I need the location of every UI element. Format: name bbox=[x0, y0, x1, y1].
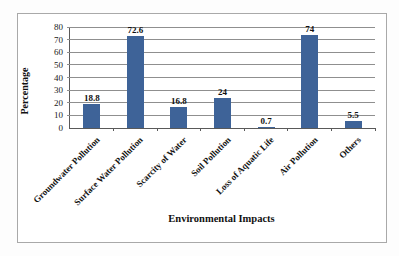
x-axis-tick-6 bbox=[331, 128, 332, 131]
x-axis-title: Environmental Impacts bbox=[69, 213, 374, 224]
value-label-3: 16.8 bbox=[159, 96, 199, 106]
gridline-70 bbox=[67, 39, 375, 40]
gridline-40 bbox=[67, 77, 375, 78]
x-axis-tick-3 bbox=[200, 128, 201, 131]
gridline-50 bbox=[67, 64, 375, 65]
value-label-1: 18.8 bbox=[72, 93, 112, 103]
screenshot-root: Percentage 18.872.616.8240.7745.5 010203… bbox=[0, 0, 399, 256]
value-label-7: 5.5 bbox=[333, 110, 373, 120]
gridline-60 bbox=[67, 52, 375, 53]
y-tick-label-70: 70 bbox=[33, 35, 63, 45]
bar-2 bbox=[127, 36, 144, 128]
y-tick-label-10: 10 bbox=[33, 110, 63, 120]
x-axis-tick-1 bbox=[113, 128, 114, 131]
x-axis-tick-2 bbox=[157, 128, 158, 131]
y-tick-label-30: 30 bbox=[33, 85, 63, 95]
bar-4 bbox=[214, 98, 231, 128]
y-axis-title: Percentage bbox=[19, 101, 30, 115]
value-label-5: 0.7 bbox=[246, 116, 286, 126]
y-tick-label-20: 20 bbox=[33, 98, 63, 108]
value-label-6: 74 bbox=[290, 24, 330, 34]
y-tick-label-60: 60 bbox=[33, 47, 63, 57]
value-label-4: 24 bbox=[203, 87, 243, 97]
y-tick-label-40: 40 bbox=[33, 73, 63, 83]
x-axis-tick-7 bbox=[375, 128, 376, 131]
chart-frame: Percentage 18.872.616.8240.7745.5 010203… bbox=[17, 13, 387, 243]
bar-1 bbox=[83, 104, 100, 128]
plot-area: 18.872.616.8240.7745.5 bbox=[69, 27, 375, 129]
bar-7 bbox=[345, 121, 362, 128]
x-axis-tick-4 bbox=[244, 128, 245, 131]
bar-5 bbox=[258, 127, 275, 128]
bar-6 bbox=[301, 35, 318, 128]
y-tick-label-0: 0 bbox=[33, 123, 63, 133]
y-tick-label-50: 50 bbox=[33, 60, 63, 70]
x-axis-tick-5 bbox=[287, 128, 288, 131]
y-tick-label-80: 80 bbox=[33, 22, 63, 32]
value-label-2: 72.6 bbox=[115, 25, 155, 35]
bar-3 bbox=[170, 107, 187, 128]
